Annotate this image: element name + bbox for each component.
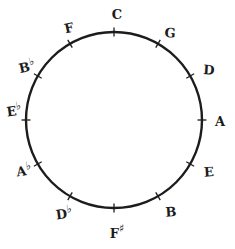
note-label-G: G (164, 26, 176, 40)
note-label-A: A (215, 115, 225, 128)
note-letter: A (215, 114, 225, 129)
note-letter: E (204, 164, 215, 180)
note-label-Eb: E♭ (6, 104, 23, 119)
note-label-Db: D♭ (55, 206, 73, 221)
note-label-E: E (204, 165, 215, 179)
note-letter: C (112, 7, 122, 22)
note-label-C: C (112, 8, 122, 21)
note-label-Ab: A♭ (16, 163, 33, 178)
circle-outline (26, 32, 202, 208)
note-letter: G (164, 25, 176, 41)
note-letter: D (203, 62, 215, 78)
note-letter: F (110, 226, 119, 241)
sharp-icon: ♯ (119, 222, 124, 235)
circle-of-fifths-diagram: CGDAEBF♯D♭A♭E♭B♭F (0, 0, 235, 249)
note-label-B: B (165, 205, 177, 219)
note-letter: B (165, 204, 177, 220)
note-label-D: D (203, 63, 215, 77)
circle-graphic (0, 0, 235, 249)
note-label-Fs: F♯ (110, 227, 125, 240)
